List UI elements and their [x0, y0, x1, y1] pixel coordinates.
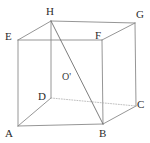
edge-bf — [102, 40, 103, 124]
vertex-label-g: G — [136, 9, 144, 20]
vertex-label-b: B — [99, 128, 106, 139]
vertex-label-d: D — [38, 91, 46, 102]
edge-he — [18, 21, 51, 40]
vertex-label-e: E — [5, 31, 12, 42]
edge-bc — [103, 106, 136, 124]
vertex-label-c: C — [137, 99, 144, 110]
edge-ad — [18, 98, 51, 126]
edge-layer — [18, 21, 136, 126]
vertex-label-h: H — [46, 6, 54, 17]
interior-point-label-o-prime: O' — [62, 72, 71, 82]
vertex-label-f: F — [95, 30, 101, 41]
edge-gc — [135, 23, 136, 106]
cube-diagram: ABCDEFGHO' — [0, 0, 150, 143]
vertex-label-a: A — [5, 128, 13, 139]
cube-geometry-svg — [0, 0, 150, 143]
edge-hg — [51, 21, 135, 23]
edge-ab — [18, 124, 103, 126]
edge-fg — [102, 23, 135, 40]
